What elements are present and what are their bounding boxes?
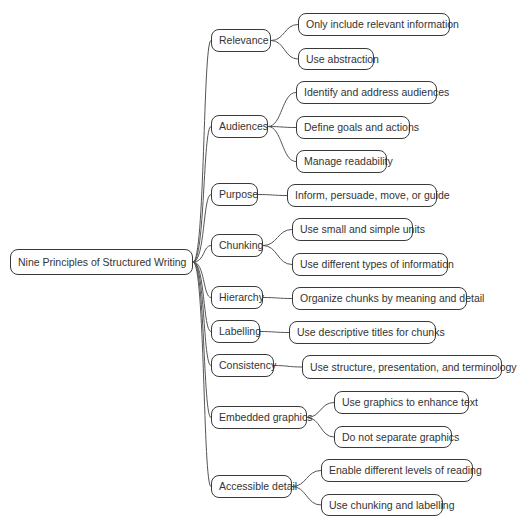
leaf-node-use-small-and-simple-units[interactable]: Use small and simple units xyxy=(292,218,413,241)
node-label: Consistency xyxy=(219,360,276,371)
branch-node-hierarchy[interactable]: Hierarchy xyxy=(211,286,263,309)
leaf-node-use-chunking-and-labelling[interactable]: Use chunking and labelling xyxy=(321,494,443,516)
node-label: Inform, persuade, move, or guide xyxy=(295,190,450,201)
branch-node-accessible-detail[interactable]: Accessible detail xyxy=(211,475,292,498)
node-label: Use abstraction xyxy=(306,54,379,65)
node-label: Hierarchy xyxy=(219,292,264,303)
node-label: Enable different levels of reading xyxy=(329,465,482,476)
connector-line xyxy=(268,127,296,162)
node-label: Organize chunks by meaning and detail xyxy=(300,293,484,304)
connector-line xyxy=(274,366,302,368)
branch-node-relevance[interactable]: Relevance xyxy=(211,29,271,52)
node-label: Chunking xyxy=(219,240,263,251)
branch-node-embedded-graphics[interactable]: Embedded graphics xyxy=(211,406,307,429)
node-label: Do not separate graphics xyxy=(342,432,459,443)
node-label: Relevance xyxy=(219,35,269,46)
connector-line xyxy=(258,195,287,196)
connector-line xyxy=(193,195,211,263)
leaf-node-use-different-types-of-information[interactable]: Use different types of information xyxy=(292,253,448,276)
node-label: Accessible detail xyxy=(219,481,297,492)
leaf-node-use-graphics-to-enhance-text[interactable]: Use graphics to enhance text xyxy=(334,391,469,414)
node-label: Use small and simple units xyxy=(300,224,425,235)
node-label: Labelling xyxy=(219,326,261,337)
node-label: Only include relevant information xyxy=(306,19,459,30)
leaf-node-use-abstraction[interactable]: Use abstraction xyxy=(298,48,374,70)
node-label: Manage readability xyxy=(304,156,393,167)
node-label: Audiences xyxy=(219,121,268,132)
connector-line xyxy=(271,25,298,41)
node-label: Embedded graphics xyxy=(219,412,312,423)
connector-line xyxy=(268,93,296,127)
branch-node-purpose[interactable]: Purpose xyxy=(211,183,258,206)
connector-line xyxy=(260,332,289,333)
leaf-node-inform-persuade-move-or-guide[interactable]: Inform, persuade, move, or guide xyxy=(287,184,437,207)
node-label: Use different types of information xyxy=(300,259,454,270)
root-node[interactable]: Nine Principles of Structured Writing xyxy=(10,249,193,275)
node-label: Use graphics to enhance text xyxy=(342,397,478,408)
branch-node-consistency[interactable]: Consistency xyxy=(211,354,274,377)
node-label: Use structure, presentation, and termino… xyxy=(310,362,517,373)
leaf-node-identify-and-address-audiences[interactable]: Identify and address audiences xyxy=(296,81,437,104)
branch-node-chunking[interactable]: Chunking xyxy=(211,234,263,257)
node-label: Define goals and actions xyxy=(304,122,419,133)
node-label: Use descriptive titles for chunks xyxy=(297,327,445,338)
connector-line xyxy=(263,246,292,265)
leaf-node-enable-different-levels-of-reading[interactable]: Enable different levels of reading xyxy=(321,459,473,482)
connector-line xyxy=(263,298,292,299)
leaf-node-only-include-relevant-information[interactable]: Only include relevant information xyxy=(298,13,450,36)
branch-node-labelling[interactable]: Labelling xyxy=(211,320,260,343)
leaf-node-manage-readability[interactable]: Manage readability xyxy=(296,150,387,173)
leaf-node-do-not-separate-graphics[interactable]: Do not separate graphics xyxy=(334,426,452,448)
leaf-node-define-goals-and-actions[interactable]: Define goals and actions xyxy=(296,116,410,139)
connector-line xyxy=(271,41,298,60)
node-label: Purpose xyxy=(219,189,258,200)
node-label: Use chunking and labelling xyxy=(329,500,455,511)
connector-line xyxy=(193,41,211,263)
leaf-node-organize-chunks-by-meaning-and-detail[interactable]: Organize chunks by meaning and detail xyxy=(292,287,467,310)
leaf-node-use-descriptive-titles-for-chunks[interactable]: Use descriptive titles for chunks xyxy=(289,321,436,344)
connector-line xyxy=(263,230,292,246)
leaf-node-use-structure-presentation-and-terminology[interactable]: Use structure, presentation, and termino… xyxy=(302,355,502,379)
node-label: Nine Principles of Structured Writing xyxy=(18,257,186,268)
branch-node-audiences[interactable]: Audiences xyxy=(211,115,268,138)
node-label: Identify and address audiences xyxy=(304,87,449,98)
